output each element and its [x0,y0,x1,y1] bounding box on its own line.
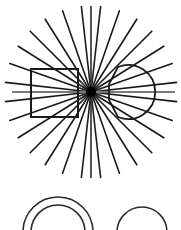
bottom-right-arc [117,207,167,230]
starburst-ray [30,92,91,153]
diagram-canvas [0,0,181,230]
starburst-hub [86,87,96,97]
bottom-left-inner-arc [31,205,85,230]
starburst-ray [91,92,152,153]
bottom-left-outer-arc [23,197,93,230]
starburst-ray [91,31,152,92]
starburst-ray [30,31,91,92]
